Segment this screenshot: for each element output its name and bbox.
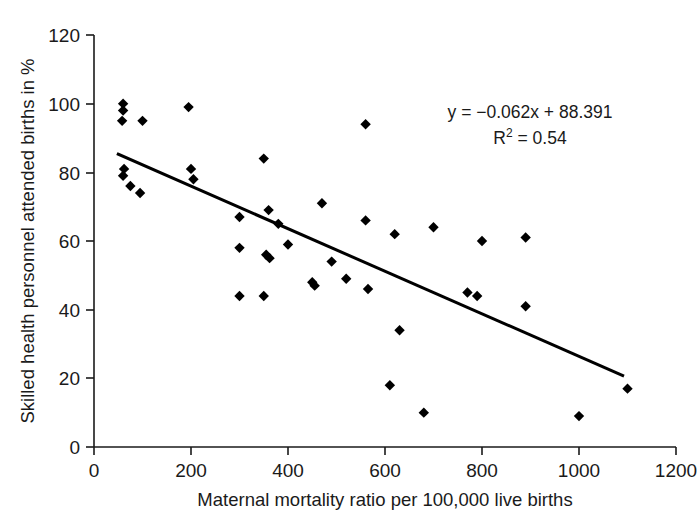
data-point: [117, 116, 127, 126]
data-point: [263, 205, 273, 215]
y-axis-title: Skilled health personnel attended births…: [17, 58, 38, 423]
x-tick-label-1000: 1000: [558, 460, 600, 481]
data-point: [462, 287, 472, 297]
trend-line: [118, 154, 622, 375]
data-point: [326, 256, 336, 266]
chart-svg: 120 100 80 60 40 20 0 0 200 400 600 800 …: [0, 0, 697, 532]
x-tick-label-400: 400: [272, 460, 304, 481]
y-tick-label-0: 0: [69, 437, 80, 458]
regression-equation-label: y = −0.062x + 88.391: [448, 102, 613, 122]
data-point: [135, 188, 145, 198]
y-tick-label-40: 40: [59, 300, 80, 321]
data-point: [419, 407, 429, 417]
x-tick-label-1200: 1200: [655, 460, 697, 481]
data-point: [183, 102, 193, 112]
data-point: [125, 181, 135, 191]
x-tick-label-600: 600: [369, 460, 401, 481]
r-squared-value: = 0.54: [513, 128, 567, 148]
x-tick-label-800: 800: [466, 460, 498, 481]
data-point: [341, 274, 351, 284]
data-point: [477, 236, 487, 246]
data-point: [520, 301, 530, 311]
data-point: [317, 198, 327, 208]
data-point: [363, 284, 373, 294]
data-point: [520, 232, 530, 242]
x-tick-label-200: 200: [175, 460, 207, 481]
data-point: [188, 174, 198, 184]
data-point: [259, 153, 269, 163]
data-point: [390, 229, 400, 239]
data-point: [428, 222, 438, 232]
data-point: [186, 164, 196, 174]
y-tick-label-80: 80: [59, 163, 80, 184]
data-point: [283, 239, 293, 249]
data-point: [472, 291, 482, 301]
data-point: [118, 171, 128, 181]
x-tick-label-0: 0: [89, 460, 100, 481]
y-tick-label-60: 60: [59, 231, 80, 252]
data-point: [118, 105, 128, 115]
data-point: [234, 212, 244, 222]
data-point: [259, 291, 269, 301]
y-axis-ticks: [86, 35, 94, 447]
data-point: [137, 116, 147, 126]
x-axis-ticks: [94, 447, 676, 455]
data-point: [622, 383, 632, 393]
r-squared-r: R: [493, 128, 506, 148]
data-point: [394, 325, 404, 335]
x-axis-tick-labels: 0 200 400 600 800 1000 1200: [89, 460, 697, 481]
y-tick-label-120: 120: [48, 25, 80, 46]
data-point: [360, 119, 370, 129]
x-axis-title: Maternal mortality ratio per 100,000 liv…: [197, 489, 572, 510]
r-squared-label: R2 = 0.54: [493, 126, 567, 148]
data-point: [234, 291, 244, 301]
y-axis-tick-labels: 120 100 80 60 40 20 0: [48, 25, 80, 458]
data-point: [360, 215, 370, 225]
y-tick-label-100: 100: [48, 94, 80, 115]
data-point: [385, 380, 395, 390]
y-tick-label-20: 20: [59, 368, 80, 389]
data-point: [234, 243, 244, 253]
data-point: [574, 411, 584, 421]
scatter-chart-figure: 120 100 80 60 40 20 0 0 200 400 600 800 …: [0, 0, 697, 532]
